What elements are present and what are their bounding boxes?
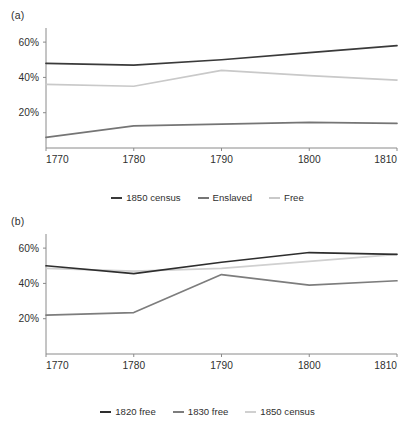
legend-line-swatch-icon <box>269 197 280 199</box>
legend-line-swatch-icon <box>100 411 111 413</box>
x-tick-label: 1800 <box>298 154 321 165</box>
legend-item-label: 1820 free <box>115 406 156 417</box>
series-line <box>46 46 397 65</box>
legend-line-swatch-icon <box>111 197 122 199</box>
legend-item[interactable]: 1830 free <box>173 406 229 417</box>
x-tick-label: 1770 <box>46 154 69 165</box>
legend-item[interactable]: 1850 census <box>111 192 180 203</box>
legend-item-label: Enslaved <box>213 192 252 203</box>
x-tick-label: 1790 <box>210 360 233 371</box>
series-line <box>46 70 397 86</box>
y-tick-label: 60% <box>19 37 39 48</box>
legend-item-label: 1830 free <box>188 406 229 417</box>
panel-b-svg: 20%40%60%17701780179018001810 <box>0 228 415 380</box>
figure-two-panel-line-charts: (a) 20%40%60%17701780179018001810 1850 c… <box>0 0 415 429</box>
legend-item-label: 1850 census <box>126 192 180 203</box>
panel-a-svg: 20%40%60%17701780179018001810 <box>0 22 415 174</box>
legend-item[interactable]: Enslaved <box>198 192 252 203</box>
legend-item-label: Free <box>284 192 304 203</box>
legend-line-swatch-icon <box>173 411 184 413</box>
legend-line-swatch-icon <box>245 411 256 413</box>
y-tick-label: 20% <box>19 107 39 118</box>
panel-a-legend: 1850 censusEnslavedFree <box>0 192 415 203</box>
y-tick-label: 60% <box>19 243 39 254</box>
x-tick-label: 1780 <box>122 360 145 371</box>
panel-b: (b) 20%40%60%17701780179018001810 1820 f… <box>0 206 415 429</box>
x-tick-label: 1810 <box>374 154 397 165</box>
x-tick-label: 1780 <box>122 154 145 165</box>
y-tick-label: 40% <box>19 72 39 83</box>
x-tick-label: 1770 <box>46 360 69 371</box>
panel-b-plot-area: 20%40%60%17701780179018001810 <box>0 228 415 380</box>
series-line <box>46 275 397 316</box>
legend-item[interactable]: 1820 free <box>100 406 156 417</box>
series-line <box>46 122 397 137</box>
panel-a: (a) 20%40%60%17701780179018001810 1850 c… <box>0 0 415 214</box>
x-tick-label: 1800 <box>298 360 321 371</box>
series-line <box>46 253 397 274</box>
panel-a-label: (a) <box>11 9 24 21</box>
legend-line-swatch-icon <box>198 197 209 199</box>
panel-b-label: (b) <box>11 215 24 227</box>
panel-a-plot-area: 20%40%60%17701780179018001810 <box>0 22 415 174</box>
y-tick-label: 20% <box>19 313 39 324</box>
x-tick-label: 1810 <box>374 360 397 371</box>
legend-item[interactable]: Free <box>269 192 304 203</box>
legend-item-label: 1850 census <box>260 406 314 417</box>
legend-item[interactable]: 1850 census <box>245 406 314 417</box>
panel-b-legend: 1820 free1830 free1850 census <box>0 406 415 417</box>
y-tick-label: 40% <box>19 278 39 289</box>
x-tick-label: 1790 <box>210 154 233 165</box>
